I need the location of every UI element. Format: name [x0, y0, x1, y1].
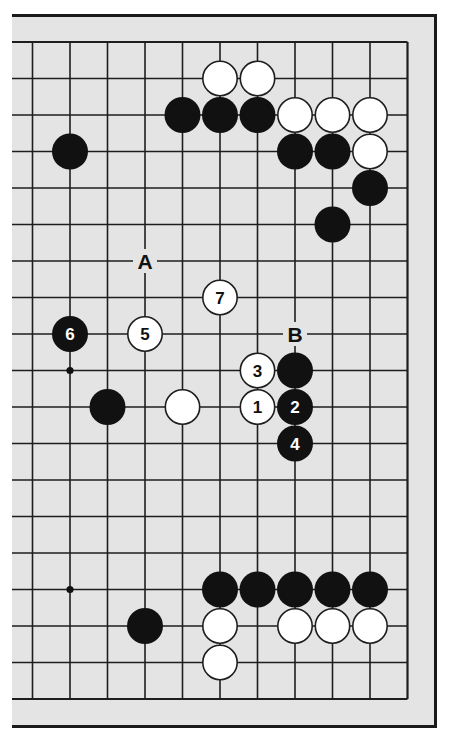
white-stone — [278, 98, 312, 132]
white-stone — [353, 134, 387, 168]
black-stone — [240, 97, 276, 133]
white-stone — [203, 61, 237, 95]
point-label-text: B — [287, 323, 302, 346]
black-stone — [315, 207, 351, 243]
black-stone — [202, 97, 238, 133]
black-stone — [352, 170, 388, 206]
white-stone — [315, 609, 349, 643]
black-stone — [90, 389, 126, 425]
black-stone — [202, 572, 238, 608]
white-stone — [315, 98, 349, 132]
star-point — [66, 586, 73, 593]
move-number: 4 — [290, 435, 300, 454]
white-stone — [278, 609, 312, 643]
point-label-text: A — [137, 250, 152, 273]
move-number: 2 — [290, 398, 299, 417]
move-1-white-stone: 1 — [240, 390, 274, 424]
move-number: 1 — [253, 398, 262, 417]
black-stone — [277, 134, 313, 170]
black-stone — [315, 572, 351, 608]
black-stone — [127, 608, 163, 644]
move-number: 5 — [140, 325, 149, 344]
move-number: 7 — [215, 289, 224, 308]
move-6-black-stone: 6 — [52, 316, 88, 352]
point-label-b: B — [283, 322, 307, 346]
black-stone — [315, 134, 351, 170]
go-board-diagram: AB 7653124 — [0, 0, 454, 742]
move-5-white-stone: 5 — [128, 317, 162, 351]
white-stone — [353, 98, 387, 132]
black-stone — [165, 97, 201, 133]
black-stone — [52, 134, 88, 170]
white-stone — [353, 609, 387, 643]
white-stone — [240, 61, 274, 95]
black-stone — [352, 572, 388, 608]
move-2-black-stone: 2 — [277, 389, 313, 425]
white-stone — [165, 390, 199, 424]
move-4-black-stone: 4 — [277, 426, 313, 462]
point-label-a: A — [133, 249, 157, 273]
move-number: 6 — [65, 325, 74, 344]
white-stone — [203, 645, 237, 679]
white-stone — [203, 609, 237, 643]
move-3-white-stone: 3 — [240, 353, 274, 387]
move-number: 3 — [253, 362, 262, 381]
star-point — [66, 367, 73, 374]
black-stone — [277, 353, 313, 389]
black-stone — [240, 572, 276, 608]
black-stone — [277, 572, 313, 608]
move-7-white-stone: 7 — [203, 280, 237, 314]
